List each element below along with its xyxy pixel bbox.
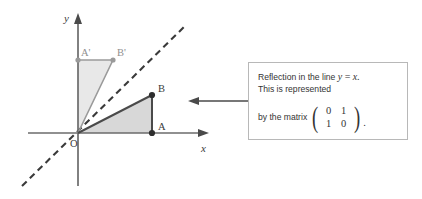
matrix-cell-r0c1: 1 — [336, 104, 351, 117]
equation-equals: = — [345, 71, 351, 82]
matrix-cell-r1c0: 1 — [321, 117, 336, 130]
callout-line-2: This is represented — [258, 83, 398, 95]
vertex-dot-a-prime — [75, 57, 80, 62]
matrix-cell-r1c1: 0 — [336, 117, 351, 130]
point-label-a: A — [158, 121, 166, 132]
x-axis-label: x — [200, 142, 206, 154]
callout-connector-arrowhead — [188, 97, 199, 105]
equation-y: y — [338, 71, 342, 82]
callout-box: Reflection in the line y = x. This is re… — [248, 62, 408, 140]
vertex-dot-b-prime — [110, 57, 115, 62]
matrix-lead-text: by the matrix — [258, 112, 307, 122]
matrix-trailing-period: . — [363, 117, 366, 130]
point-label-b-prime: B' — [117, 47, 126, 58]
mirror-line-dashed — [22, 27, 184, 186]
y-axis-label: y — [63, 12, 69, 24]
figure-root: y x O A' B' A B Reflection in the line y… — [0, 0, 422, 199]
vertex-dot-b — [149, 92, 155, 98]
equation-period: . — [357, 71, 360, 82]
matrix-grid: 0 1 1 0 — [321, 104, 351, 130]
x-axis-arrowhead — [198, 129, 209, 137]
callout-line-1: Reflection in the line y = x. — [258, 71, 398, 83]
matrix-cell-r0c0: 0 — [321, 104, 336, 117]
y-axis-arrowhead — [74, 13, 82, 24]
point-label-a-prime: A' — [81, 47, 91, 58]
origin-label: O — [70, 138, 78, 149]
callout-line-1-prefix: Reflection in the line — [258, 72, 335, 82]
matrix-expression: by the matrix ( 0 1 1 0 ) . — [258, 104, 398, 130]
vertex-dot-a — [149, 130, 155, 136]
point-label-b: B — [158, 83, 165, 94]
